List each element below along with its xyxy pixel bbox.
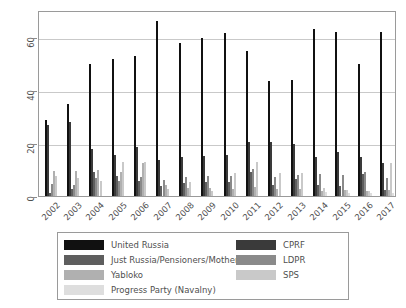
y-tick-label: 20 bbox=[26, 143, 36, 161]
bar-group bbox=[291, 12, 305, 196]
bar bbox=[122, 162, 124, 196]
legend-label: CPRF bbox=[283, 240, 305, 250]
bar-group bbox=[156, 12, 170, 196]
bar bbox=[47, 125, 49, 196]
bar bbox=[100, 181, 102, 196]
legend-item[interactable]: United Russia bbox=[64, 238, 257, 252]
bar bbox=[167, 189, 169, 196]
bar bbox=[279, 173, 281, 196]
legend-item[interactable]: CPRF bbox=[236, 238, 305, 252]
bar bbox=[370, 193, 372, 196]
bar bbox=[211, 191, 213, 196]
y-tick-mark bbox=[33, 197, 37, 198]
y-tick-label: 0 bbox=[26, 196, 36, 214]
legend-label: Just Russia/Pensioners/Motherland bbox=[111, 255, 257, 265]
legend-column-left: United RussiaJust Russia/Pensioners/Moth… bbox=[64, 238, 257, 298]
bar bbox=[55, 176, 57, 196]
legend-item[interactable]: Yabloko bbox=[64, 268, 257, 282]
legend-swatch bbox=[236, 270, 276, 280]
bar-group bbox=[134, 12, 148, 196]
legend: United RussiaJust Russia/Pensioners/Moth… bbox=[57, 232, 349, 300]
bar bbox=[69, 122, 71, 196]
legend-swatch bbox=[64, 255, 104, 265]
bar-group bbox=[224, 12, 238, 196]
bar-group bbox=[335, 12, 349, 196]
legend-label: United Russia bbox=[111, 240, 169, 250]
legend-item[interactable]: Progress Party (Navalny) bbox=[64, 283, 257, 297]
plot-area bbox=[38, 11, 396, 197]
bar-group bbox=[268, 12, 282, 196]
bar bbox=[392, 193, 394, 196]
chart-root: Percent Support 0204060 2002200320042005… bbox=[0, 0, 406, 308]
bar-group bbox=[358, 12, 372, 196]
y-tick-mark bbox=[33, 38, 37, 39]
y-tick-mark bbox=[33, 91, 37, 92]
bar-group bbox=[201, 12, 215, 196]
bar-group bbox=[45, 12, 59, 196]
legend-swatch bbox=[64, 240, 104, 250]
legend-swatch bbox=[236, 255, 276, 265]
bar bbox=[301, 173, 303, 196]
bar-group bbox=[179, 12, 193, 196]
legend-item[interactable]: LDPR bbox=[236, 253, 305, 267]
bar-group bbox=[246, 12, 260, 196]
bar bbox=[234, 173, 236, 196]
legend-label: Progress Party (Navalny) bbox=[111, 285, 216, 295]
y-tick-label: 60 bbox=[26, 37, 36, 55]
legend-swatch bbox=[236, 240, 276, 250]
bar bbox=[77, 178, 79, 196]
legend-swatch bbox=[64, 285, 104, 295]
bar-group bbox=[89, 12, 103, 196]
legend-label: LDPR bbox=[283, 255, 305, 265]
bar bbox=[325, 192, 327, 196]
bar-group bbox=[112, 12, 126, 196]
bar bbox=[348, 193, 350, 196]
legend-label: Yabloko bbox=[111, 270, 143, 280]
bar-group bbox=[313, 12, 327, 196]
bar-group bbox=[67, 12, 81, 196]
legend-item[interactable]: Just Russia/Pensioners/Motherland bbox=[64, 253, 257, 267]
y-tick-label: 40 bbox=[26, 90, 36, 108]
bar bbox=[256, 162, 258, 196]
legend-column-right: CPRFLDPRSPS bbox=[236, 238, 305, 283]
bar bbox=[189, 182, 191, 196]
bar-group bbox=[380, 12, 394, 196]
legend-label: SPS bbox=[283, 270, 299, 280]
bar bbox=[390, 163, 392, 196]
legend-item[interactable]: SPS bbox=[236, 268, 305, 282]
bar bbox=[144, 162, 146, 196]
legend-swatch bbox=[64, 270, 104, 280]
y-tick-mark bbox=[33, 144, 37, 145]
